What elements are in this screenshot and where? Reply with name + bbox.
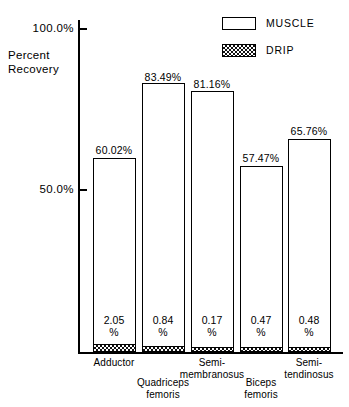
open-rectangle-swatch-icon [222,17,256,30]
legend: MUSCLE DRIP [222,14,315,68]
legend-item-drip: DRIP [222,41,315,59]
bar-muscle-quadriceps-femoris [142,83,185,352]
legend-label-muscle: MUSCLE [266,17,315,29]
category-label-quadriceps-femoris: Quadriceps femoris [118,377,208,400]
bar-value-label-semitendinosus: 65.76% [269,125,349,137]
category-label-adductor: Adductor [69,357,159,369]
y-axis-title: Percent Recovery [8,48,59,76]
bar-muscle-semimembranosus [191,91,234,352]
category-label-biceps-femoris: Biceps femoris [216,377,306,400]
y-axis-tick-label-50: 50.0% [39,183,74,195]
x-axis-line [78,352,343,354]
category-label-semitendinosus: Semi- tendinosus [264,357,349,380]
legend-label-drip: DRIP [266,44,294,56]
hatched-rectangle-swatch-icon [222,44,256,57]
y-axis-tick-100 [80,28,87,30]
bar-drip-quadriceps-femoris [143,346,184,351]
bar-chart: 100.0% 50.0% Percent Recovery MUSCLE DRI… [0,0,349,407]
legend-item-muscle: MUSCLE [222,14,315,32]
bar-drip-semitendinosus [289,347,330,351]
y-axis-tick-label-100: 100.0% [33,22,74,34]
bar-drip-biceps-femoris [241,347,282,351]
bar-value-label-semimembranosus: 81.16% [172,78,252,90]
drip-value-label-semitendinosus: 0.48 % [279,314,339,338]
y-axis-line [78,20,80,353]
bar-drip-semimembranosus [192,347,233,351]
bar-drip-adductor [94,344,135,351]
y-axis-tick-50 [80,189,87,191]
